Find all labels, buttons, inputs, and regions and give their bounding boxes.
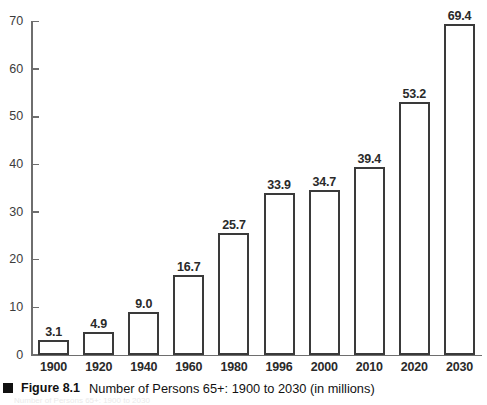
y-axis-tick-label: 30: [0, 206, 23, 219]
y-axis-tick-label: 0: [0, 349, 23, 362]
figure-caption: Figure 8.1 Number of Persons 65+: 1900 t…: [0, 378, 487, 398]
y-axis-tick-mark: [31, 21, 39, 23]
bar-chart-plot-area: 010203040506070 3.119004.919209.0194016.…: [0, 0, 487, 372]
bar-value-label-1980: 25.7: [209, 219, 259, 232]
bar-1920: [83, 332, 114, 355]
y-axis-tick-mark: [31, 164, 39, 166]
bar-value-label-2030: 69.4: [434, 10, 484, 23]
y-axis-tick-label: 20: [0, 253, 23, 266]
figure-8-1: 010203040506070 3.119004.919209.0194016.…: [0, 0, 487, 405]
x-axis-tick-label-2010: 2010: [344, 361, 394, 374]
bar-value-label-2000: 34.7: [299, 176, 349, 189]
x-axis-tick-label-2030: 2030: [434, 361, 484, 374]
x-axis-tick-label-1996: 1996: [254, 361, 304, 374]
y-axis-tick-label: 50: [0, 110, 23, 123]
x-axis-tick-label-1960: 1960: [164, 361, 214, 374]
bar-value-label-1996: 33.9: [254, 179, 304, 192]
square-bullet-icon: [3, 383, 13, 393]
bar-1900: [38, 340, 69, 355]
bar-value-label-2020: 53.2: [389, 88, 439, 101]
y-axis-tick-label: 70: [0, 15, 23, 28]
y-axis-tick-mark: [31, 259, 39, 261]
figure-number-label: Figure 8.1: [21, 381, 80, 395]
bar-value-label-1940: 9.0: [119, 298, 169, 311]
bar-value-label-1920: 4.9: [74, 318, 124, 331]
y-axis-tick-mark: [31, 211, 39, 213]
bar-2020: [399, 102, 430, 355]
y-axis-tick-label: 60: [0, 63, 23, 76]
x-axis-tick-label-1940: 1940: [119, 361, 169, 374]
bar-value-label-1900: 3.1: [29, 326, 79, 339]
figure-caption-text: Number of Persons 65+: 1900 to 2030 (in …: [89, 381, 375, 396]
y-axis-tick-label: 10: [0, 301, 23, 314]
page-bleedthrough-text: Number of Persons 65+: 1900 to 2030: [14, 396, 150, 405]
y-axis-tick-label: 40: [0, 158, 23, 171]
x-axis-tick-label-2020: 2020: [389, 361, 439, 374]
y-axis-tick-mark: [31, 68, 39, 70]
bar-1960: [173, 275, 204, 355]
x-axis-tick-label-2000: 2000: [299, 361, 349, 374]
bar-value-label-1960: 16.7: [164, 261, 214, 274]
bar-1940: [128, 312, 159, 355]
bar-1980: [218, 233, 249, 355]
bar-1996: [264, 193, 295, 355]
y-axis-tick-mark: [31, 116, 39, 118]
bar-2010: [354, 167, 385, 355]
bar-value-label-2010: 39.4: [344, 153, 394, 166]
y-axis-tick-mark: [31, 307, 39, 309]
x-axis-tick-label-1920: 1920: [74, 361, 124, 374]
x-axis-tick-label-1900: 1900: [29, 361, 79, 374]
bar-2000: [309, 190, 340, 355]
bar-2030: [444, 24, 475, 355]
x-axis-tick-label-1980: 1980: [209, 361, 259, 374]
